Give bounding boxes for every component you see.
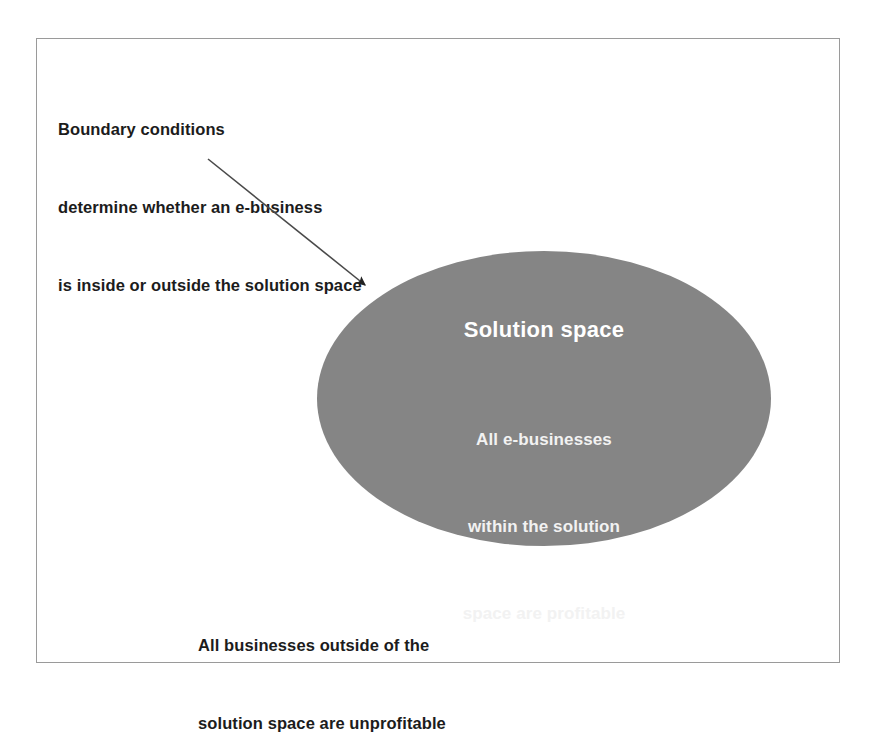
figure-frame: Boundary conditions determine whether an… bbox=[36, 38, 840, 663]
solution-space-content: Solution space All e-businesses within t… bbox=[317, 251, 771, 546]
solution-space-line-2: within the solution bbox=[463, 512, 626, 541]
solution-space-description: All e-businesses within the solution spa… bbox=[463, 367, 626, 686]
outside-note-line-2: solution space are unprofitable bbox=[198, 710, 446, 736]
solution-space-line-1: All e-businesses bbox=[463, 425, 626, 454]
callout-line-1: Boundary conditions bbox=[58, 116, 362, 142]
callout-line-2: determine whether an e-business bbox=[58, 194, 362, 220]
outside-solution-space-note: All businesses outside of the solution s… bbox=[198, 580, 446, 736]
outside-note-line-1: All businesses outside of the bbox=[198, 632, 446, 658]
solution-space-ellipse: Solution space All e-businesses within t… bbox=[317, 251, 771, 546]
solution-space-title: Solution space bbox=[464, 317, 625, 343]
solution-space-line-3: space are profitable bbox=[463, 599, 626, 628]
